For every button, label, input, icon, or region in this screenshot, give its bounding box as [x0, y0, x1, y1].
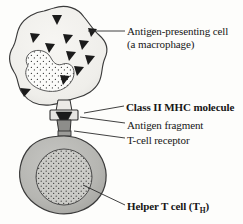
t-cell-receptor-base: [58, 131, 71, 136]
macrophage-cell: [10, 6, 107, 105]
label-helper-t-cell-prefix: Helper T cell (T: [127, 200, 200, 212]
leader-tcell-receptor: [74, 131, 125, 138]
label-helper-t-cell-suffix: ): [205, 200, 209, 212]
synapse-junction: [50, 100, 78, 136]
label-class-ii-mhc-molecule: Class II MHC molecule: [126, 101, 234, 114]
t-cell-nucleus: [36, 149, 92, 205]
mhc-stalk: [56, 100, 72, 111]
helper-t-cell: [20, 136, 107, 214]
label-helper-t-cell: Helper T cell (TH): [127, 200, 209, 215]
immunology-diagram: Antigen-presenting cell (a macrophage) C…: [0, 0, 243, 224]
leader-antigen-fragment: [80, 117, 125, 123]
leader-mhc: [84, 106, 124, 113]
label-tcell-receptor: T-cell receptor: [127, 134, 190, 147]
label-helper-t-cell-subscript: H: [200, 206, 206, 215]
label-antigen-presenting-cell: Antigen-presenting cell: [127, 25, 228, 38]
label-antigen-fragment: Antigen fragment: [127, 119, 203, 132]
label-a-macrophage: (a macrophage): [127, 38, 194, 51]
